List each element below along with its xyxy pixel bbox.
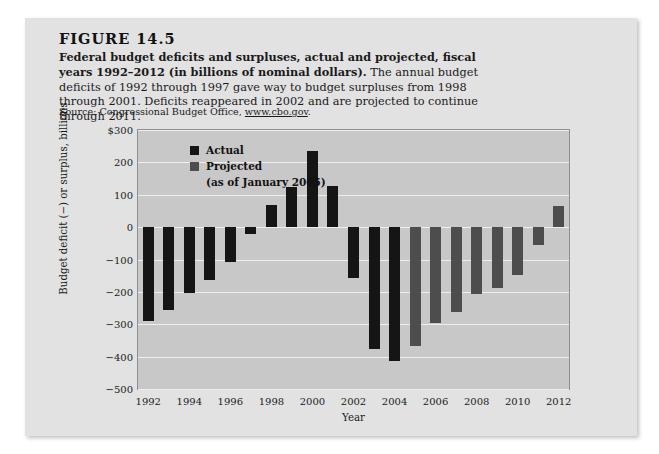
legend-item-actual: Actual [190,144,326,157]
bar-2004 [389,227,400,360]
bar-1998 [266,205,277,227]
y-axis-ticks: $3002001000−100−200−300−400−500 [73,129,133,390]
gridline [138,324,569,325]
x-axis-ticks: 1992199419961998200020022004200620082010… [137,394,570,412]
x-axis-tick-label: 2002 [341,396,366,407]
gridline [138,357,569,358]
bar-1997 [245,227,256,234]
bar-1994 [184,227,195,293]
y-axis-tick-label: 100 [114,189,133,200]
bar-2006 [430,227,441,323]
x-axis-tick-label: 1992 [136,396,161,407]
x-axis-tick-label: 2012 [546,396,571,407]
plot-area: Actual Projected (as of January 2005) [137,129,570,390]
y-axis-tick-label: $300 [108,125,133,136]
x-axis-tick-label: 2008 [464,396,489,407]
bar-2001 [327,186,338,227]
legend-swatch-actual-icon [190,146,199,155]
figure-panel: FIGURE 14.5 Federal budget deficits and … [25,18,637,436]
legend-label-actual: Actual [206,144,244,157]
bar-1999 [286,187,297,227]
gridline [138,195,569,196]
bar-2007 [451,227,462,311]
bar-1995 [204,227,215,280]
x-axis-tick-label: 1996 [218,396,243,407]
gridline [138,389,569,390]
y-axis-tick-label: −500 [106,384,133,395]
y-axis-label: Budget deficit (−) or surplus, billions [58,99,69,299]
bar-2012 [553,206,564,227]
x-axis-tick-label: 2006 [423,396,448,407]
legend-sublabel-projected: (as of January 2005) [206,176,326,188]
bar-2009 [492,227,503,288]
x-axis-tick-label: 1998 [259,396,284,407]
x-axis-tick-label: 2010 [505,396,530,407]
x-axis-tick-label: 2004 [382,396,407,407]
y-axis-tick-label: −400 [106,351,133,362]
bar-2005 [410,227,421,346]
bar-2002 [348,227,359,278]
x-axis-tick-label: 1994 [177,396,202,407]
bar-2008 [471,227,482,294]
bar-1992 [143,227,154,321]
bar-1993 [163,227,174,310]
legend-swatch-projected-icon [190,162,199,171]
x-axis-tick-label: 2000 [300,396,325,407]
bar-2011 [533,227,544,245]
legend-item-projected: Projected [190,160,326,173]
budget-deficit-bar-chart: Budget deficit (−) or surplus, billions … [25,18,637,436]
chart-legend: Actual Projected (as of January 2005) [190,144,326,188]
bar-2003 [369,227,380,348]
y-axis-tick-label: 0 [127,222,133,233]
legend-label-projected: Projected [206,160,262,173]
x-axis-label: Year [137,412,570,423]
gridline [138,130,569,131]
y-axis-tick-label: −100 [106,254,133,265]
y-axis-tick-label: −200 [106,286,133,297]
bar-2010 [512,227,523,275]
y-axis-tick-label: 200 [114,157,133,168]
gridline [138,292,569,293]
y-axis-tick-label: −300 [106,319,133,330]
bar-1996 [225,227,236,262]
